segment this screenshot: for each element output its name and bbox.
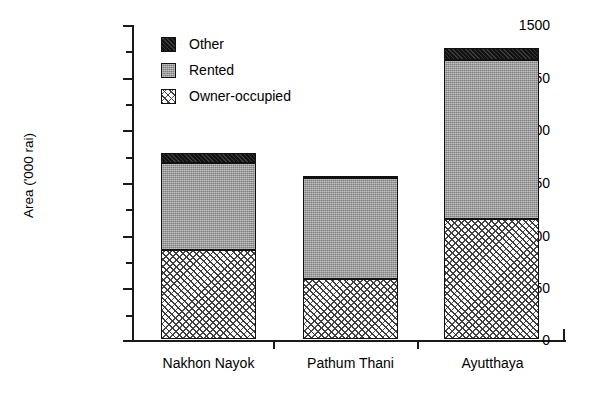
x-category-label-nakhon-nayok: Nakhon Nayok bbox=[138, 355, 279, 371]
x-category-label-ayutthaya: Ayutthaya bbox=[422, 355, 563, 371]
y-tick-1000 bbox=[123, 130, 132, 132]
y-tick-minor-1375 bbox=[126, 51, 132, 53]
bar-segment-rented bbox=[303, 178, 398, 279]
hatched-swatch-icon bbox=[161, 89, 176, 104]
legend-label-rented: Rented bbox=[189, 63, 234, 77]
legend-row-owner-occupied: Owner-occupied bbox=[161, 83, 291, 109]
bar-segment-other bbox=[444, 48, 539, 60]
y-tick-label-1500: 1500 bbox=[519, 18, 550, 32]
y-tick-minor-875 bbox=[126, 157, 132, 159]
bar-segment-owner-occupied bbox=[161, 250, 256, 339]
bar-segment-owner-occupied bbox=[444, 219, 539, 339]
x-tick-left-end bbox=[132, 329, 134, 342]
x-tick-right-end bbox=[563, 329, 565, 342]
bar-group-ayutthaya bbox=[444, 48, 539, 339]
legend-row-rented: Rented bbox=[161, 57, 291, 83]
bar-segment-other bbox=[303, 176, 398, 178]
bar-segment-owner-occupied bbox=[303, 279, 398, 339]
y-tick-minor-125 bbox=[126, 315, 132, 317]
y-axis-title: Area ('000 rai) bbox=[21, 86, 36, 266]
y-tick-250 bbox=[123, 288, 132, 290]
legend-row-other: Other bbox=[161, 31, 291, 57]
y-tick-label-0: 0 bbox=[542, 333, 550, 347]
legend-label-other: Other bbox=[189, 37, 224, 51]
bar-group-pathum-thani bbox=[303, 176, 398, 339]
legend-label-owner-occupied: Owner-occupied bbox=[189, 89, 291, 103]
legend: Other Rented Owner-occupied bbox=[161, 31, 291, 109]
y-axis-line bbox=[132, 25, 134, 342]
stacked-bar-chart: Area ('000 rai) 1500 1250 1000 750 500 2… bbox=[0, 0, 601, 394]
black-swatch-icon bbox=[161, 37, 176, 52]
bar-segment-rented bbox=[444, 60, 539, 219]
gray-swatch-icon bbox=[161, 63, 176, 78]
y-tick-minor-1125 bbox=[126, 104, 132, 106]
x-tick-divider-2 bbox=[417, 340, 419, 349]
y-tick-minor-375 bbox=[126, 262, 132, 264]
y-tick-0 bbox=[123, 340, 132, 342]
y-tick-1250 bbox=[123, 78, 132, 80]
bar-segment-other bbox=[161, 153, 256, 163]
y-tick-1500 bbox=[123, 25, 132, 27]
y-tick-minor-625 bbox=[126, 209, 132, 211]
bar-group-nakhon-nayok bbox=[161, 153, 256, 339]
y-tick-500 bbox=[123, 236, 132, 238]
x-category-label-pathum-thani: Pathum Thani bbox=[280, 355, 421, 371]
x-axis-line bbox=[132, 340, 566, 342]
x-tick-divider-1 bbox=[273, 340, 275, 349]
y-tick-750 bbox=[123, 183, 132, 185]
bar-segment-rented bbox=[161, 163, 256, 250]
